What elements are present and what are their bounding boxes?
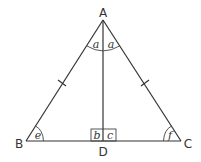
angle-label-a-right: a — [108, 38, 115, 51]
side-ab — [26, 20, 103, 141]
vertex-label-b: B — [15, 137, 23, 151]
angle-label-c-angle: c — [107, 129, 113, 142]
angle-label-a-left: a — [93, 38, 100, 51]
side-ac — [103, 20, 181, 141]
angle-label-e: e — [35, 129, 42, 142]
vertex-label-c: C — [184, 137, 192, 151]
isosceles-triangle-diagram: A B C D a a b c e f — [0, 0, 201, 162]
angle-label-b-angle: b — [93, 129, 100, 142]
vertex-label-a: A — [99, 6, 108, 20]
angle-label-f: f — [167, 129, 174, 142]
vertex-label-d: D — [98, 145, 107, 159]
